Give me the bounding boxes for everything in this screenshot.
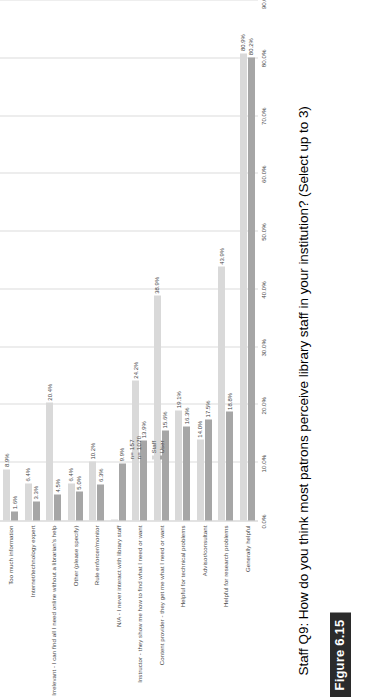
bar-user: [76, 491, 83, 520]
category-label: Rule enforcer/monitor: [86, 521, 108, 697]
category-label: Other (please specify): [65, 521, 87, 697]
bar-value-label: 80.2%: [248, 38, 254, 55]
bar-staff: [46, 402, 53, 520]
bar-value-label: 3.3%: [33, 485, 39, 499]
bar-value-label: 5.0%: [76, 475, 82, 489]
bar-user: [205, 419, 212, 520]
bar-row: 8.9%: [3, 0, 10, 520]
bar-value-label: 80.9%: [240, 34, 246, 51]
axis-tick-label: 0.0%: [260, 514, 267, 528]
category-label: Generally helpful: [237, 521, 259, 697]
figure-badge: Figure 6.15: [330, 612, 351, 697]
axis-tick-label: 90.0%: [260, 0, 267, 9]
bar-staff: [89, 461, 96, 520]
bar-staff: [25, 483, 32, 520]
category-label: Too much information: [0, 521, 22, 697]
bar-group: 10.2%6.3%: [86, 0, 108, 520]
bar-staff: [240, 53, 247, 520]
bar-row: 20.4%: [46, 0, 53, 520]
axis-tick-label: 10.0%: [260, 454, 267, 472]
bar-row: 10.2%: [89, 0, 96, 520]
bar-row: 6.4%: [25, 0, 32, 520]
bar-user: [54, 494, 61, 520]
bar-row: 18.8%: [226, 0, 233, 520]
axis-tick-label: 80.0%: [260, 49, 267, 67]
bar-row: 9.9%: [119, 0, 126, 520]
n-staff-note: n= 157: [128, 435, 135, 459]
bar-group: 43.9%18.8%: [215, 0, 237, 520]
category-label: Advisor/consultant: [194, 521, 216, 697]
bar-user: [226, 411, 233, 520]
axis-tick-label: 50.0%: [260, 223, 267, 241]
category-label: Instructor - they show me how to find wh…: [129, 521, 151, 697]
bar-value-label: 43.9%: [219, 247, 225, 264]
axis-tick-label: 40.0%: [260, 281, 267, 299]
legend-item-user: User: [158, 440, 165, 459]
bar-value-label: 6.4%: [25, 467, 31, 481]
bar-row: 16.3%: [183, 0, 190, 520]
bar-user: [119, 463, 126, 520]
bar-row: 80.2%: [248, 0, 255, 520]
chart-title: Staff Q9: How do you think most patrons …: [296, 7, 312, 675]
bar-value-label: 38.9%: [154, 276, 160, 293]
bar-staff: [111, 519, 118, 520]
bar-user: [97, 484, 104, 520]
category-axis: Too much informationInternet/technology …: [0, 521, 258, 697]
bar-row: 1.6%: [11, 0, 18, 520]
bar-group: 8.9%1.6%: [0, 0, 22, 520]
bar-row: 17.5%: [205, 0, 212, 520]
bar-group: 9.9%: [108, 0, 130, 520]
bar-value-label: 10.2%: [90, 442, 96, 459]
bar-value-label: 20.4%: [47, 383, 53, 400]
bar-group: 14.0%17.5%: [194, 0, 216, 520]
bar-value-label: 8.9%: [4, 453, 10, 467]
n-user-note: n= 1070: [135, 435, 142, 459]
rotated-figure-canvas: Too much informationInternet/technology …: [0, 0, 374, 697]
bar-staff: [197, 439, 204, 520]
category-label: Content provider - they get me what I ne…: [151, 521, 173, 697]
category-label: Helpful for research problems: [215, 521, 237, 697]
bar-group: 6.4%5.0%: [65, 0, 87, 520]
bar-user: [11, 511, 18, 520]
category-label: Helpful for technical problems: [172, 521, 194, 697]
bar-value-label: 24.2%: [133, 361, 139, 378]
bar-value-label: 15.6%: [162, 411, 168, 428]
bar-value-label: 6.4%: [68, 467, 74, 481]
bar-value-label: 16.3%: [184, 407, 190, 424]
chart-plot-area: Too much informationInternet/technology …: [0, 0, 292, 697]
bar-value-label: 18.8%: [227, 392, 233, 409]
bar-group: 6.4%3.3%: [22, 0, 44, 520]
sample-size-annotations: n= 157 n= 1070: [128, 435, 142, 459]
legend-swatch-user-icon: [160, 455, 164, 459]
legend-label-user: User: [158, 440, 165, 453]
bar-staff: [3, 469, 10, 520]
bar-group: 20.4%4.5%: [43, 0, 65, 520]
bar-group: 80.9%80.2%: [237, 0, 259, 520]
bar-row: 6.3%: [97, 0, 104, 520]
figure-page: Too much informationInternet/technology …: [0, 0, 374, 697]
bar-value-label: 17.5%: [205, 400, 211, 417]
axis-tick-label: 60.0%: [260, 165, 267, 183]
bar-row: 80.9%: [240, 0, 247, 520]
bar-row: 43.9%: [218, 0, 225, 520]
category-label: Internet/technology expert: [22, 521, 44, 697]
category-label: Irrelevant - I can find all I need onlin…: [43, 521, 65, 697]
bar-row: 4.5%: [54, 0, 61, 520]
bar-staff: [154, 295, 161, 520]
bar-staff: [68, 483, 75, 520]
bar-value-label: 14.0%: [197, 420, 203, 437]
bar-row: 14.0%: [197, 0, 204, 520]
axis-tick-label: 70.0%: [260, 107, 267, 125]
legend-item-staff: Staff: [150, 440, 157, 459]
bar-value-label: 1.6%: [12, 495, 18, 509]
value-axis: 0.0%10.0%20.0%30.0%40.0%50.0%60.0%70.0%8…: [258, 0, 274, 521]
bar-value-label: 19.1%: [176, 391, 182, 408]
bar-row: 6.4%: [68, 0, 75, 520]
bar-row: 3.3%: [33, 0, 40, 520]
bar-user: [183, 426, 190, 520]
bar-group: 19.1%16.3%: [172, 0, 194, 520]
bar-user: [33, 501, 40, 520]
bar-staff: [175, 410, 182, 520]
category-label: N/A - I never interact with library staf…: [108, 521, 130, 697]
bar-row: 5.0%: [76, 0, 83, 520]
